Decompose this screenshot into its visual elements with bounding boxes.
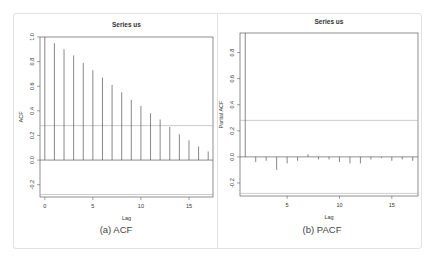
- chart-canvas: Series us051015-0.20.00.20.40.60.81.0Lag…: [0, 0, 434, 259]
- undefined-y-tick: 0.0: [229, 153, 235, 161]
- undefined-x-label: Lag: [122, 215, 131, 221]
- undefined-y-tick: 1.0: [29, 33, 35, 41]
- undefined-plot-frame: [40, 37, 213, 197]
- undefined-y-tick: 0.2: [29, 132, 35, 140]
- undefined-y-tick: 0.4: [229, 101, 235, 109]
- undefined-x-tick: 0: [43, 203, 46, 209]
- undefined-y-tick: -0.2: [29, 180, 35, 189]
- undefined-y-tick: 0.2: [229, 127, 235, 135]
- pacf-caption: (b) PACF: [262, 224, 382, 235]
- undefined-y-tick: 0.6: [29, 82, 35, 90]
- undefined-x-tick: 10: [138, 203, 144, 209]
- undefined-x-tick: 15: [186, 203, 192, 209]
- undefined-title: Series us: [315, 18, 344, 25]
- undefined-title: Series us: [112, 21, 141, 28]
- undefined-y-label: ACF: [18, 111, 24, 123]
- undefined-plot-frame: [240, 33, 418, 196]
- undefined-x-tick: 5: [286, 202, 289, 208]
- undefined-x-tick: 5: [91, 203, 94, 209]
- undefined-y-tick: 0.8: [29, 58, 35, 66]
- undefined-y-tick: 0.4: [29, 107, 35, 115]
- acf-caption: (a) ACF: [56, 224, 176, 235]
- undefined-y-label: Partial ACF: [218, 100, 224, 128]
- undefined-y-tick: 0.0: [29, 156, 35, 164]
- undefined-x-tick: 15: [389, 202, 395, 208]
- undefined-x-label: Lag: [324, 214, 333, 220]
- undefined-y-tick: 0.8: [229, 49, 235, 57]
- undefined-y-tick: 0.6: [229, 75, 235, 83]
- undefined-x-tick: 10: [336, 202, 342, 208]
- undefined-y-tick: -0.2: [229, 178, 235, 187]
